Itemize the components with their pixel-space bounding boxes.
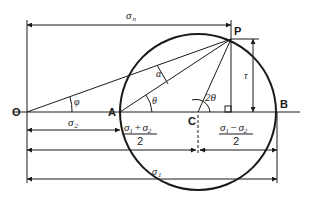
sigma-n-label: σn	[126, 9, 136, 23]
mean-stress-numerator: σ1+σ2	[124, 121, 152, 135]
radius-denominator: 2	[233, 135, 239, 147]
alpha-label: α	[156, 68, 162, 79]
mean-stress-fraction: σ1+σ2 2	[123, 121, 157, 147]
radius-numerator: σ1−σ2	[220, 121, 248, 135]
radius-fraction: σ1−σ2 2	[219, 121, 253, 147]
phi-arc	[70, 97, 72, 112]
point-b-label: B	[280, 98, 288, 110]
two-theta-label: 2θ	[205, 91, 217, 103]
sigma-2-label: σ2	[68, 116, 78, 130]
phi-label: φ	[74, 96, 80, 107]
point-a-label: A	[108, 106, 116, 118]
point-o-label: O	[12, 106, 21, 118]
mean-stress-denominator: 2	[137, 135, 143, 147]
tau-label: τ	[244, 70, 248, 81]
point-c-label: C	[188, 115, 196, 127]
mohr-circle-diagram: O A B C P φ α θ 2θ σn σ2 σ1 τ σ1+σ2 2 σ1…	[0, 0, 309, 203]
theta-label: θ	[152, 95, 157, 106]
right-angle-marker	[225, 106, 231, 112]
point-p-label: P	[234, 25, 241, 37]
line-op	[27, 39, 231, 112]
